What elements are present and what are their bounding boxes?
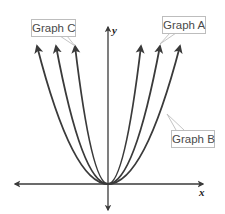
graph-c-callout: Graph C xyxy=(31,19,76,37)
graph-b-leader xyxy=(167,114,184,130)
x-axis-label: x xyxy=(199,187,205,198)
graph-a-leader xyxy=(160,33,176,44)
graph-b-callout: Graph B xyxy=(171,130,215,148)
graph-a-callout: Graph A xyxy=(162,16,206,34)
y-axis-label: y xyxy=(112,25,117,36)
graph-c-leader xyxy=(60,36,75,46)
callout-leaders xyxy=(60,33,184,130)
